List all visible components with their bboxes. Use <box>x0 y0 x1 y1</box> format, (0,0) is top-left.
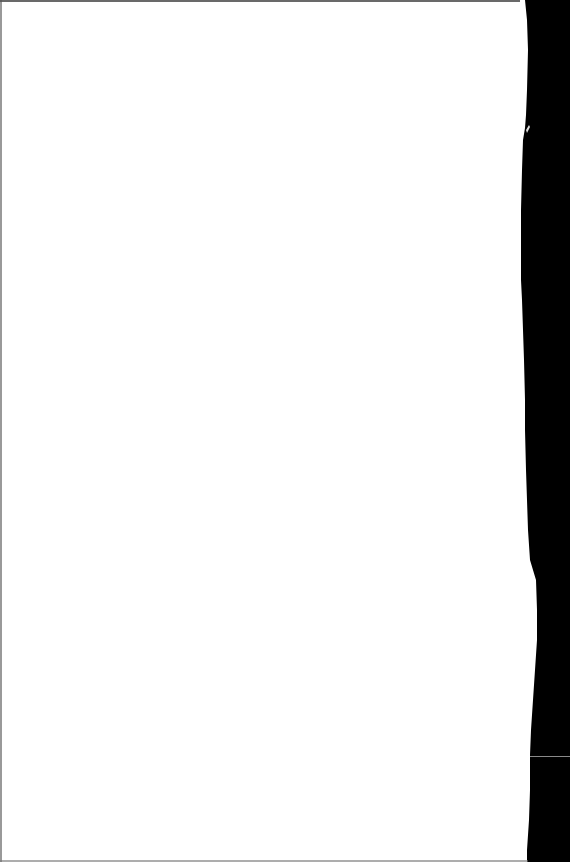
left-edge-shadow <box>0 0 2 862</box>
top-edge-shadow <box>0 0 520 2</box>
edge-line <box>530 756 570 757</box>
page-scan-graphic <box>0 0 570 862</box>
blank-paper-sheet <box>0 0 537 862</box>
scanned-page <box>0 0 570 862</box>
